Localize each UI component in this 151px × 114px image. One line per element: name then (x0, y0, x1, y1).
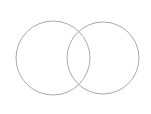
right-circle (67, 22, 139, 94)
venn-diagram (0, 0, 151, 114)
left-circle (16, 21, 90, 95)
